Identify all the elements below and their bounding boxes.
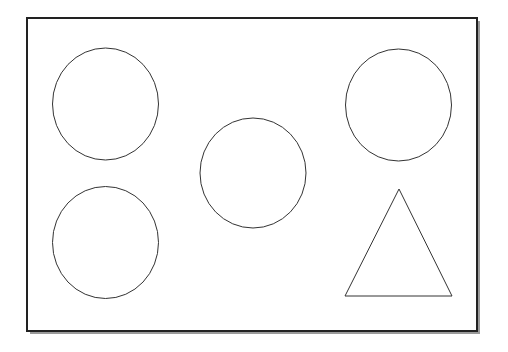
- diagram-canvas: [0, 0, 508, 352]
- diagram-frame: [27, 18, 477, 331]
